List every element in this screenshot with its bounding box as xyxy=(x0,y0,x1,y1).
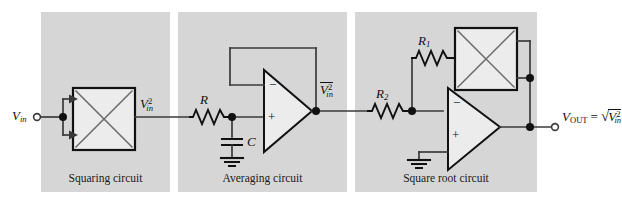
input-terminal xyxy=(34,114,41,121)
caption-averaging-text: Averaging circuit xyxy=(223,172,303,184)
label-opamp2-inverting: − xyxy=(453,95,460,111)
label-capacitor-c-text: C xyxy=(247,134,256,149)
label-vout-equals: = xyxy=(591,109,598,124)
label-resistor-r2-sub: 2 xyxy=(384,92,388,102)
caption-squaring-text: Squaring circuit xyxy=(69,172,143,184)
node-mult2-right xyxy=(526,74,534,82)
resistor-R xyxy=(190,110,232,124)
label-vin-squared-avg-overbar: V2in xyxy=(320,82,333,99)
resistor-R1 xyxy=(412,51,455,65)
label-opamp2-plus: + xyxy=(452,127,459,142)
label-vout-equation: VOUT=√V2in xyxy=(562,108,621,125)
label-opamp2-noninverting: + xyxy=(452,127,459,143)
caption-square-root-circuit: Square root circuit xyxy=(355,172,537,184)
node-opamp2-inv xyxy=(408,107,416,115)
output-terminal xyxy=(552,124,559,131)
caption-averaging-circuit: Averaging circuit xyxy=(178,172,347,184)
label-resistor-r1-sub: 1 xyxy=(426,39,430,49)
caption-square-root-text: Square root circuit xyxy=(403,172,489,184)
label-capacitor-c: C xyxy=(247,134,256,150)
label-resistor-r1: R1 xyxy=(418,33,430,49)
label-vin-base: V xyxy=(12,108,20,123)
node-vout xyxy=(526,123,534,131)
label-resistor-r1-base: R xyxy=(418,33,426,48)
label-vout-radicand-sub: in xyxy=(614,115,621,125)
label-opamp1-noninverting: + xyxy=(268,109,275,125)
label-vout-radicand: V2in xyxy=(608,109,621,126)
ground-symbol-square-root xyxy=(408,160,430,168)
label-opamp1-plus: + xyxy=(268,109,275,124)
label-opamp1-minus: − xyxy=(269,77,276,92)
caption-squaring-circuit: Squaring circuit xyxy=(41,172,170,184)
label-resistor-r: R xyxy=(200,92,208,108)
label-opamp2-minus: − xyxy=(453,95,460,110)
label-vin-squared-sub: in xyxy=(146,103,153,113)
label-resistor-r-text: R xyxy=(200,92,208,107)
label-resistor-r2: R2 xyxy=(376,86,388,102)
circuit-diagram: Vin V2in R C V2in R1 R2 − + − + VOUT=√V2… xyxy=(0,0,622,216)
resistor-R2 xyxy=(368,104,412,118)
node-opamp1-out xyxy=(312,107,320,115)
label-vin: Vin xyxy=(12,108,27,124)
label-vout-base: V xyxy=(562,109,570,124)
ground-symbol-averaging xyxy=(221,158,243,166)
label-vout-sub: OUT xyxy=(570,115,588,125)
label-vin-squared-avg-sub: in xyxy=(326,89,333,99)
label-vin-squared-avg: V2in xyxy=(320,82,333,99)
node-rc xyxy=(228,113,236,121)
label-vin-squared: V2in xyxy=(140,96,153,113)
label-resistor-r2-base: R xyxy=(376,86,384,101)
node-vin-split xyxy=(59,113,67,121)
label-vin-sub: in xyxy=(20,114,27,124)
label-opamp1-inverting: − xyxy=(269,77,276,93)
